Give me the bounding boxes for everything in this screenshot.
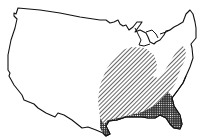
us-range-map xyxy=(0,0,204,138)
